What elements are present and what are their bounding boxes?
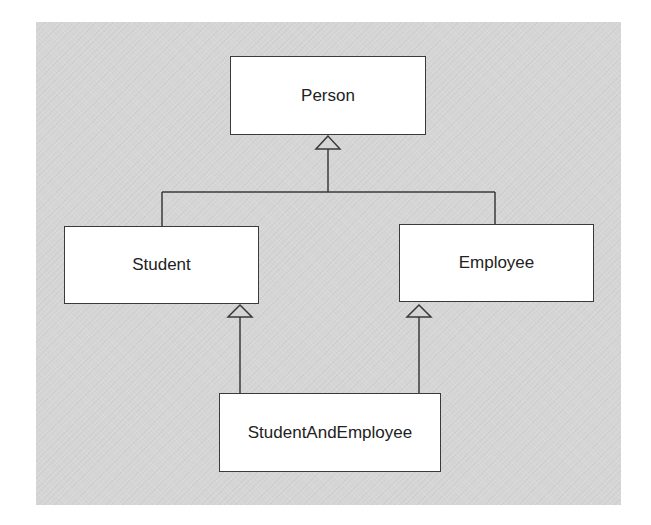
class-student-and-employee: StudentAndEmployee	[219, 393, 441, 472]
class-label: StudentAndEmployee	[248, 423, 412, 443]
class-employee: Employee	[399, 224, 594, 302]
class-label: Person	[301, 86, 355, 106]
class-label: Employee	[459, 253, 535, 273]
class-student: Student	[64, 226, 259, 304]
class-label: Student	[132, 255, 191, 275]
generalization-arrow-icon	[407, 305, 431, 317]
generalization-arrow-icon	[228, 305, 252, 317]
class-person: Person	[230, 56, 426, 135]
generalization-arrow-icon	[316, 136, 340, 149]
